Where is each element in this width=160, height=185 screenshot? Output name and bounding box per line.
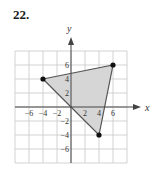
vertex-point	[96, 132, 101, 137]
vertex-point	[110, 62, 115, 67]
triangle-polygon	[43, 65, 113, 135]
x-tick-label: 6	[111, 109, 115, 118]
vertex-point	[40, 76, 45, 81]
triangle	[43, 65, 113, 135]
y-axis-arrow-icon	[68, 37, 74, 45]
x-tick-label: 2	[83, 109, 87, 118]
y-tick-label: 6	[65, 61, 69, 70]
x-tick-label: −4	[39, 109, 48, 118]
y-tick-label: 2	[65, 89, 69, 98]
y-tick-label: −6	[60, 145, 69, 154]
coordinate-plane: xy −6−4−2246642−2−4−6	[0, 0, 160, 185]
y-tick-label: 4	[65, 75, 69, 84]
y-axis-label: y	[66, 23, 72, 34]
x-tick-label: −6	[25, 109, 34, 118]
y-tick-label: −2	[60, 117, 69, 126]
x-axis-arrow-icon	[133, 104, 141, 110]
x-axis-label: x	[144, 102, 150, 113]
x-tick-label: 4	[97, 109, 101, 118]
y-tick-label: −4	[60, 131, 69, 140]
